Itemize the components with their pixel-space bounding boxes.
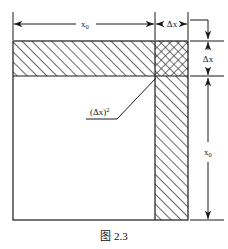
region-top-band xyxy=(13,41,155,76)
dimension-top-delta-x: Δx xyxy=(156,12,188,40)
label-top-delta-x: Δx xyxy=(167,19,178,29)
figure-container: x0 Δx Δx x0 xyxy=(0,0,228,249)
label-right-delta-x: Δx xyxy=(203,54,214,64)
region-core-square xyxy=(13,76,155,220)
label-right-x0: x0 xyxy=(204,147,212,158)
hatched-regions xyxy=(13,41,188,220)
region-right-band xyxy=(155,76,188,220)
dimension-right-x0: x0 xyxy=(190,78,224,220)
dimension-right-delta-x: Δx xyxy=(190,41,224,76)
dimension-top-x0: x0 xyxy=(13,12,155,40)
corner-pointer xyxy=(190,20,208,39)
figure-caption: 图 2.3 xyxy=(100,230,128,242)
region-corner-square xyxy=(155,41,188,76)
label-top-x0: x0 xyxy=(81,19,89,30)
figure-2-3-diagram: x0 Δx Δx x0 xyxy=(0,0,228,249)
